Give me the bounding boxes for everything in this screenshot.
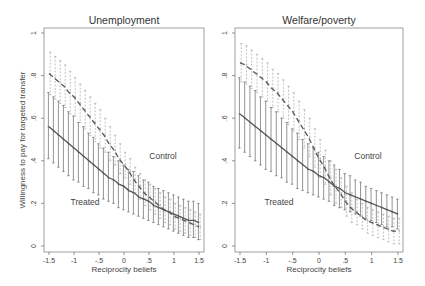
treated-label: Treated [71,197,100,207]
x-tick-label: -1.5 [234,257,246,264]
x-tick-label: 1 [172,257,176,264]
y-tick-label: .4 [30,158,37,164]
panel-title: Welfare/poverty [282,14,356,26]
x-tick-label: .5 [342,257,348,264]
chart-canvas: Willingness to pay for targeted transfer… [0,0,425,286]
x-tick-label: -.5 [289,257,297,264]
y-tick-label: .2 [30,200,37,206]
x-tick-label: 0 [317,257,321,264]
y-tick-label: .8 [30,73,37,79]
y-tick-label: .6 [221,115,228,121]
x-tick-label: -.5 [95,257,103,264]
x-tick-label: .5 [146,257,152,264]
y-tick-label: 0 [30,244,37,248]
y-tick-label: .6 [30,115,37,121]
figure: Willingness to pay for targeted transfer… [0,0,425,286]
y-tick-label: 0 [221,244,228,248]
treated-label: Treated [265,197,294,207]
x-tick-label: 0 [122,257,126,264]
panel-unemployment: Unemployment Reciprocity beliefs Control… [30,14,204,274]
x-tick-label: -1.5 [43,257,55,264]
x-tick-label: -1 [263,257,269,264]
panel-title: Unemployment [89,14,160,26]
y-tick-label: .4 [221,158,228,164]
y-tick-label: .2 [221,200,228,206]
x-axis-label: Reciprocity beliefs [92,265,157,274]
y-tick-label: .8 [221,73,228,79]
y-tick-label: 1 [30,31,37,35]
control-label: Control [149,151,177,161]
control-label: Control [354,151,382,161]
x-tick-label: 1 [370,257,374,264]
x-tick-label: -1 [71,257,77,264]
x-tick-label: 1.5 [393,257,403,264]
y-axis-label: Willingness to pay for targeted transfer [18,71,27,208]
panel-welfare-poverty: Welfare/poverty Reciprocity beliefs Cont… [221,14,403,274]
x-tick-label: 1.5 [194,257,204,264]
y-tick-label: 1 [221,31,228,35]
x-axis-label: Reciprocity beliefs [287,265,352,274]
